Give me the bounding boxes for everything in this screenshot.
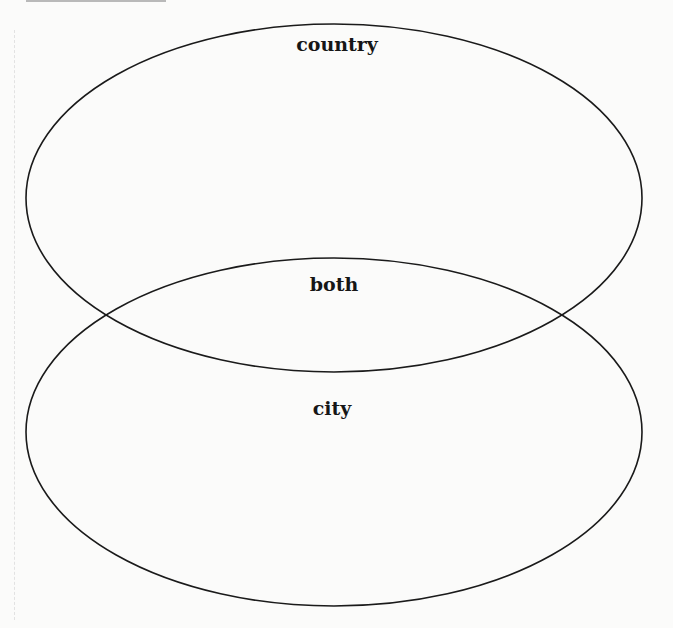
both-label: both bbox=[234, 273, 434, 295]
city-label: city bbox=[232, 397, 432, 419]
city-ellipse bbox=[26, 258, 642, 606]
country-ellipse bbox=[26, 24, 642, 372]
country-label: country bbox=[237, 33, 437, 55]
venn-diagram bbox=[0, 0, 673, 628]
